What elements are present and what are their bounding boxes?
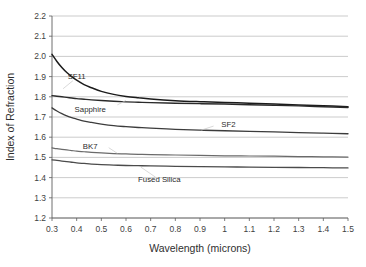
x-tick-label: 0.8 — [169, 224, 181, 234]
x-tick-label: 0.5 — [95, 224, 107, 234]
refractive-index-chart: 2.22.12.01.91.81.71.61.51.41.31.2 0.30.4… — [0, 0, 366, 267]
series-label-sapphire: Sapphire — [75, 105, 106, 114]
series-curve-fused-silica — [52, 160, 348, 168]
series-leader-lines-group — [63, 81, 213, 178]
y-tick-label: 1.3 — [34, 193, 46, 203]
series-label-bk7: BK7 — [83, 142, 98, 151]
x-tick-label: 0.7 — [145, 224, 157, 234]
y-tick-label: 1.5 — [34, 152, 46, 162]
gridlines-group — [52, 16, 348, 218]
x-tick-label: 1.5 — [342, 224, 354, 234]
x-axis-title: Wavelength (microns) — [149, 242, 251, 254]
y-tick-label: 1.7 — [34, 112, 46, 122]
y-tick-label: 2.0 — [34, 51, 46, 61]
chart-canvas: 2.22.12.01.91.81.71.61.51.41.31.2 0.30.4… — [0, 0, 366, 267]
y-tick-label: 1.4 — [34, 173, 46, 183]
x-tick-label: 1.2 — [268, 224, 280, 234]
series-label-fused-silica: Fused Silica — [138, 175, 181, 184]
series-label-sf11: SF11 — [68, 72, 86, 81]
x-tick-label: 1.4 — [317, 224, 329, 234]
leader-line-bk7 — [109, 148, 118, 154]
x-tick-label: 0.4 — [71, 224, 83, 234]
x-tick-label: 1.1 — [243, 224, 255, 234]
y-tick-labels-group: 2.22.12.01.91.81.71.61.51.41.31.2 — [34, 11, 46, 223]
x-tick-label: 1 — [222, 224, 227, 234]
leader-line-sf2 — [201, 126, 213, 130]
series-curve-sf11 — [52, 54, 348, 106]
x-tick-label: 0.9 — [194, 224, 206, 234]
y-axis-title: Index of Refraction — [4, 73, 16, 161]
x-tick-labels-group: 0.30.40.50.60.70.80.911.11.21.31.41.5 — [46, 224, 354, 234]
y-tick-label: 2.2 — [34, 11, 46, 21]
y-tick-label: 2.1 — [34, 31, 46, 41]
y-tick-label: 1.9 — [34, 72, 46, 82]
x-tick-label: 1.3 — [293, 224, 305, 234]
series-label-sf2: SF2 — [221, 120, 235, 129]
x-tick-label: 0.6 — [120, 224, 132, 234]
y-tick-label: 1.2 — [34, 213, 46, 223]
leader-line-sf11 — [63, 81, 73, 89]
y-axis-line-group — [49, 16, 348, 221]
y-tick-label: 1.8 — [34, 92, 46, 102]
x-tick-label: 0.3 — [46, 224, 58, 234]
y-tick-label: 1.6 — [34, 132, 46, 142]
